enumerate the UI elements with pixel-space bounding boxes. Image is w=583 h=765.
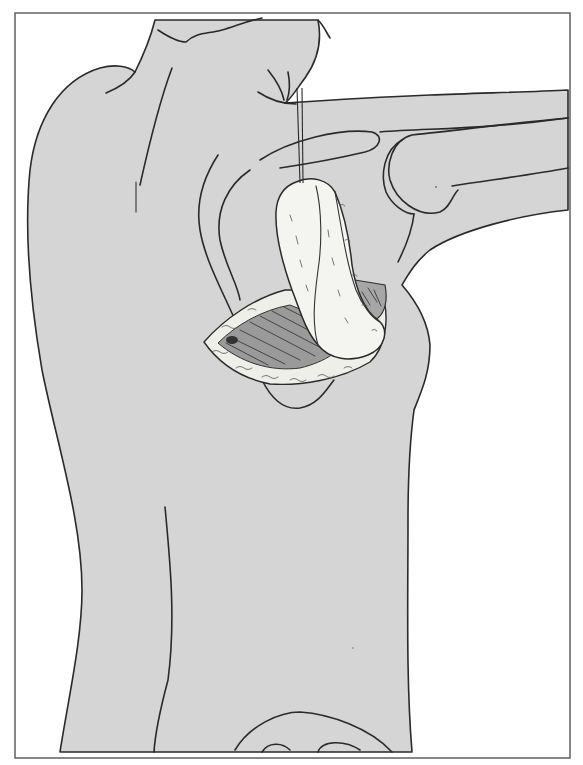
wound-dark-spot	[226, 336, 238, 344]
skin-dot	[352, 647, 354, 649]
illustration-canvas	[0, 0, 583, 765]
skin-dot	[435, 186, 437, 188]
surgical-illustration	[0, 0, 583, 765]
